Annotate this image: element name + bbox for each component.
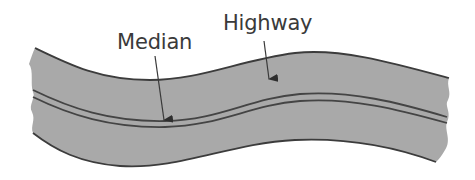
median-label: Median: [117, 30, 192, 54]
highway-diagram: Median Highway: [0, 0, 475, 180]
highway-label: Highway: [223, 11, 312, 35]
